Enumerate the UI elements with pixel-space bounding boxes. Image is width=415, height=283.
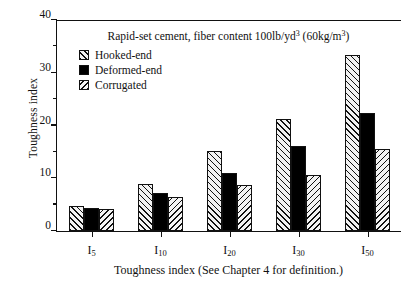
x-axis-title: Toughness index (See Chapter 4 for defin… [56, 263, 401, 278]
y-tick-label: 20 [11, 114, 51, 126]
chart-title: Rapid-set cement, fiber content 100lb/yd… [56, 29, 401, 42]
x-tick [299, 231, 300, 237]
x-tick-label: I20 [200, 243, 260, 258]
y-tick-label: 30 [11, 61, 51, 73]
bar [99, 209, 114, 231]
x-tick-label: I50 [338, 243, 398, 258]
y-tick-label: 0 [11, 219, 51, 231]
chart-title-part-a: Rapid-set cement, fiber content 100lb/yd [108, 30, 296, 42]
bar [168, 197, 183, 231]
legend-label: Deformed-end [95, 64, 162, 76]
bar [360, 113, 375, 231]
chart-title-part-b: (60kg/m [300, 30, 342, 42]
legend-label: Corrugated [95, 79, 147, 91]
legend-swatch-icon [79, 50, 89, 60]
y-tick [51, 19, 57, 20]
bar [222, 173, 237, 231]
y-tick-label: 10 [11, 166, 51, 178]
bar [138, 184, 153, 231]
bar [84, 208, 99, 231]
bar [237, 185, 252, 231]
x-tick-label: I5 [62, 243, 122, 258]
bar [306, 175, 321, 231]
legend-item: Deformed-end [79, 62, 162, 77]
legend-label: Hooked-end [95, 49, 152, 61]
bar [69, 206, 84, 231]
legend-swatch-icon [79, 80, 89, 90]
x-tick [368, 231, 369, 237]
y-tick-minor [53, 98, 57, 99]
bar [291, 146, 306, 231]
x-tick [92, 231, 93, 237]
y-tick [51, 72, 57, 73]
bar [375, 149, 390, 231]
y-tick [51, 177, 57, 178]
x-tick-label-subscript: 5 [91, 248, 95, 258]
legend-item: Hooked-end [79, 47, 162, 62]
bar [207, 151, 222, 231]
y-tick [51, 124, 57, 125]
y-tick-minor [53, 151, 57, 152]
x-tick-label-subscript: 50 [365, 248, 374, 258]
y-tick [51, 230, 57, 231]
bar [276, 119, 291, 231]
y-tick-minor [53, 45, 57, 46]
y-tick-minor [53, 203, 57, 204]
x-tick [230, 231, 231, 237]
x-tick [161, 231, 162, 237]
x-tick-label: I30 [269, 243, 329, 258]
x-tick-label-subscript: 30 [296, 248, 305, 258]
legend-item: Corrugated [79, 77, 162, 92]
legend-swatch-icon [79, 65, 89, 75]
bar [345, 55, 360, 231]
legend: Hooked-endDeformed-endCorrugated [79, 47, 162, 92]
chart-title-part-c: ) [346, 30, 350, 42]
x-tick-label-subscript: 10 [158, 248, 167, 258]
y-tick-label: 40 [11, 8, 51, 20]
x-tick-label: I10 [131, 243, 191, 258]
bar [153, 193, 168, 232]
chart-figure: Toughness index 010203040 I5I10I20I30I50… [0, 0, 415, 283]
x-tick-label-subscript: 20 [227, 248, 236, 258]
